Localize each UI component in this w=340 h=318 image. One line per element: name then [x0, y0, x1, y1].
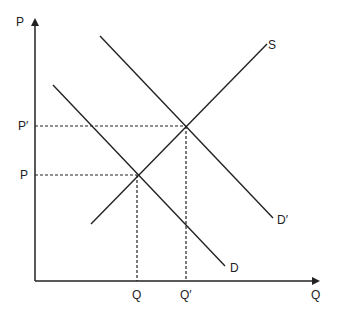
quantity-label-q-prime: Q′ [180, 288, 192, 302]
y-axis-label: P [16, 15, 24, 29]
quantity-label-q: Q [132, 288, 141, 302]
demand-shifted-label: D′ [277, 213, 289, 227]
price-label-p: P [20, 168, 28, 182]
x-axis-label: Q [311, 288, 320, 302]
demand-label: D [230, 261, 239, 275]
demand-curve [53, 85, 225, 266]
supply-curve [91, 44, 267, 224]
supply-label: S [268, 38, 276, 52]
supply-demand-diagram: P Q P′ P Q Q′ S D D′ [0, 0, 340, 318]
price-label-p-prime: P′ [18, 119, 29, 133]
demand-shifted-curve [100, 36, 273, 218]
